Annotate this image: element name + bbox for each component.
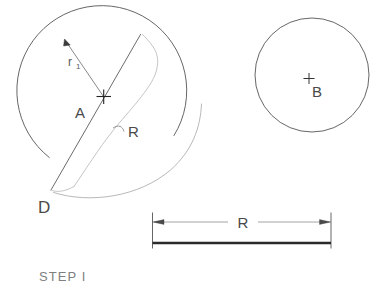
arm-straight-edge [51,35,141,191]
step-caption: STEP I [39,269,87,284]
label-r1: r [68,55,72,69]
label-R-arm: R [128,123,139,140]
dimension-R-group: R [153,213,332,249]
label-D: D [38,198,50,217]
circle-B-outline [255,18,369,132]
technical-drawing-canvas: r 1 A R D B [0,0,377,302]
label-R-dimension: R [238,214,249,231]
circle-A-outline [17,6,187,158]
label-r1-subscript: 1 [76,62,81,71]
dimension-arrowhead-left [153,220,164,225]
arm-curved-edge [74,35,158,187]
radius-arrowhead-r1 [64,39,71,46]
label-A: A [75,104,85,121]
center-cross-A [97,90,112,105]
circle-A-group: r 1 A R D [17,6,202,217]
arm-tip-D [51,187,74,192]
label-B: B [312,83,322,100]
radius-leader-line-r1 [66,42,104,97]
circle-B-group: B [255,18,369,132]
dimension-arrowhead-right [320,220,331,225]
step-1-construction-diagram: r 1 A R D B [0,0,377,302]
